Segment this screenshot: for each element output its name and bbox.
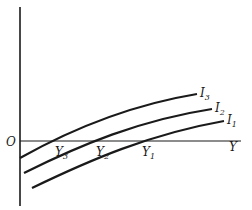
origin-label: O	[6, 135, 16, 149]
x-axis-label: Y	[229, 140, 238, 154]
curve-label-i1: I1	[226, 113, 237, 129]
intercept-label-y2: Y2	[96, 145, 109, 161]
curve-label-i2: I2	[214, 101, 225, 117]
intercept-label-y1: Y1	[142, 145, 155, 161]
intercept-label-y3: Y3	[55, 145, 68, 161]
indifference-diagram: O Y3 Y2 Y1 Y I3 I2 I1	[0, 0, 252, 210]
curve-i3	[20, 94, 197, 158]
curve-label-i3: I3	[199, 86, 210, 102]
